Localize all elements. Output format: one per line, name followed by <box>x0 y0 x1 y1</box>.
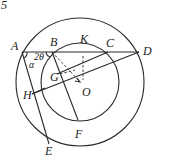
label-b: B <box>50 35 58 49</box>
label-o: O <box>82 85 91 99</box>
geometry-diagram: 5 A B K C D G O H F E α 2θ <box>0 0 170 163</box>
figure-number: 5 <box>1 0 7 12</box>
angle-alpha-arc <box>24 52 27 58</box>
label-h: H <box>22 88 33 102</box>
label-a: A <box>10 39 19 53</box>
line-bf <box>52 52 78 120</box>
label-e: E <box>44 144 53 158</box>
label-d: D <box>142 44 152 58</box>
label-c: C <box>106 36 115 50</box>
label-g: G <box>50 70 59 84</box>
label-f: F <box>74 127 83 141</box>
line-cg <box>57 52 108 74</box>
arrow-o <box>75 78 80 82</box>
label-2theta: 2θ <box>34 51 44 62</box>
angle-2theta-arc <box>46 52 50 57</box>
label-k: K <box>79 32 89 46</box>
